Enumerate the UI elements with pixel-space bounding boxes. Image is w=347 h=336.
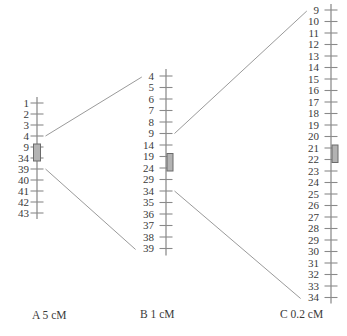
map-C-locus-label-9: 9 (314, 4, 320, 16)
map-B-locus-label-24: 24 (143, 162, 155, 174)
zoom-connector-line-A4-B4 (46, 77, 142, 136)
map-C-locus-label-16: 16 (308, 84, 320, 96)
map-C-locus-label-27: 27 (308, 211, 320, 223)
map-B-locus-label-7: 7 (149, 104, 155, 116)
map-B-locus-label-37: 37 (143, 219, 155, 231)
map-C-locus-label-12: 12 (308, 38, 319, 50)
map-B-locus-label-38: 38 (143, 231, 155, 243)
map-C-locus-label-10: 10 (308, 15, 320, 27)
map-C-locus-label-33: 33 (308, 280, 320, 292)
map-C-locus-label-26: 26 (308, 199, 320, 211)
map-C-locus-label-14: 14 (308, 61, 320, 73)
map-B-locus-label-5: 5 (149, 81, 155, 93)
map-C-locus-label-15: 15 (308, 73, 320, 85)
map-C-locus-label-21: 21 (308, 142, 319, 154)
map-C-highlight-region (332, 145, 338, 163)
map-c-caption: C 0.2 cM (280, 308, 323, 320)
map-B-locus-label-6: 6 (149, 93, 155, 105)
map-canvas: 1234934394041424345678914192429343536373… (0, 0, 347, 336)
map-B-highlight-region (167, 154, 173, 172)
zoom-connector-line-B34-C34 (175, 191, 301, 299)
map-B-locus-label-19: 19 (143, 150, 155, 162)
map-C-locus-label-34: 34 (308, 291, 320, 303)
map-B-locus-label-8: 8 (149, 116, 155, 128)
map-C-locus-label-29: 29 (308, 234, 320, 246)
zoom-connector-line-B9-C9 (175, 11, 307, 134)
map-b-caption: B 1 cM (140, 308, 175, 320)
map-C-locus-label-28: 28 (308, 222, 320, 234)
map-C-locus-label-31: 31 (308, 257, 319, 269)
map-A-highlight-region (34, 144, 41, 161)
map-C-locus-label-20: 20 (308, 130, 320, 142)
linkage-map-figure: 1234934394041424345678914192429343536373… (0, 0, 347, 336)
map-C-locus-label-22: 22 (308, 153, 319, 165)
map-C-locus-label-11: 11 (308, 27, 319, 39)
map-B-locus-label-14: 14 (143, 139, 155, 151)
zoom-connector-line-A39-B39 (46, 169, 136, 250)
map-C-locus-label-23: 23 (308, 165, 320, 177)
map-C-locus-label-32: 32 (308, 268, 319, 280)
map-C-locus-label-24: 24 (308, 176, 320, 188)
map-C-locus-label-13: 13 (308, 50, 320, 62)
map-C-locus-label-25: 25 (308, 188, 320, 200)
map-a-caption: A 5 cM (32, 309, 67, 321)
map-C-locus-label-30: 30 (308, 245, 320, 257)
map-C-locus-label-19: 19 (308, 119, 320, 131)
map-B-locus-label-29: 29 (143, 173, 155, 185)
map-C-locus-label-17: 17 (308, 96, 320, 108)
map-B-locus-label-39: 39 (143, 242, 155, 254)
map-C-locus-label-18: 18 (308, 107, 320, 119)
map-B-locus-label-35: 35 (143, 196, 155, 208)
map-B-locus-label-36: 36 (143, 208, 155, 220)
map-B-locus-label-34: 34 (143, 185, 155, 197)
map-B-locus-label-9: 9 (149, 127, 155, 139)
map-B-locus-label-4: 4 (149, 70, 155, 82)
map-A-locus-label-43: 43 (18, 207, 30, 219)
